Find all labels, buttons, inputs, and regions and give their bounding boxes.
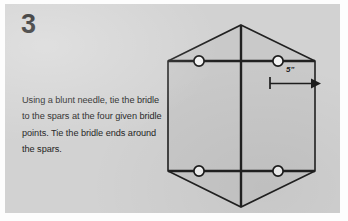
illustration-panel: 3 Using a blunt needle, tie the bridle t… [5,4,340,213]
upper-right-bridle-point [273,56,283,66]
kite-diagram-svg [145,8,340,213]
dimension-arrow-icon [267,75,323,91]
dimension-callout: 5" [267,66,323,94]
kite-diagram [145,8,340,213]
step-number: 3 [21,11,36,38]
instruction-step-panel: 3 Using a blunt needle, tie the bridle t… [0,0,348,221]
dimension-label: 5" [286,66,294,74]
lower-right-bridle-point [273,166,283,176]
lower-left-bridle-point [194,166,204,176]
upper-left-bridle-point [194,56,204,66]
